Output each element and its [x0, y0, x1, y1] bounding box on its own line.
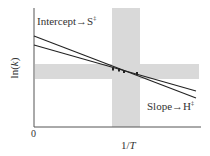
- intercept-text: Intercept→S: [37, 15, 93, 27]
- y-label-prefix: ln(: [8, 66, 20, 78]
- intercept-annotation: Intercept→S‡: [37, 15, 96, 27]
- intercept-superscript: ‡: [93, 15, 96, 21]
- x-label-prefix: 1/: [121, 139, 130, 151]
- slope-annotation: Slope→H‡: [147, 100, 194, 112]
- y-axis-label: ln(k): [8, 58, 20, 79]
- x-axis-label: 1/T: [121, 140, 136, 151]
- y-label-suffix: ): [8, 58, 20, 62]
- horizontal-confidence-band: [35, 64, 199, 79]
- y-label-variable: k: [8, 61, 20, 66]
- slope-text: Slope→H: [147, 100, 191, 112]
- slope-superscript: ‡: [191, 100, 194, 106]
- x-label-variable: T: [130, 139, 136, 151]
- x-origin-label: 0: [31, 129, 36, 139]
